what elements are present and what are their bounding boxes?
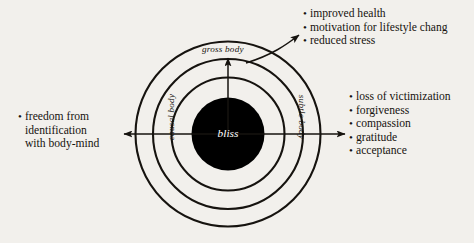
list-item-label-continued: with body-mind bbox=[18, 137, 138, 151]
list-item: •forgiveness bbox=[349, 104, 474, 118]
benefits-list-top-right: •improved health •motivation for lifesty… bbox=[303, 7, 474, 48]
list-item-label: gratitude bbox=[356, 131, 397, 144]
bullet-icon: • bbox=[303, 21, 310, 35]
ring-label-causal-body: causal body bbox=[166, 94, 176, 140]
bullet-icon: • bbox=[303, 34, 310, 48]
list-item-label: compassion bbox=[356, 117, 411, 130]
list-item-label-continued: identification bbox=[18, 124, 138, 138]
benefits-list-left: •freedom from identification with body-m… bbox=[18, 110, 138, 151]
figure-canvas: gross body causal body subtle body bliss… bbox=[0, 0, 474, 243]
list-item-label: motivation for lifestyle chang bbox=[310, 21, 447, 34]
list-item: •compassion bbox=[349, 117, 474, 131]
bullet-icon: • bbox=[349, 144, 356, 158]
list-item: •gratitude bbox=[349, 131, 474, 145]
list-item: •improved health bbox=[303, 7, 474, 21]
list-item-label: improved health bbox=[310, 7, 386, 20]
bullet-icon: • bbox=[349, 117, 356, 131]
center-label-bliss: bliss bbox=[198, 127, 258, 139]
list-item: •acceptance bbox=[349, 144, 474, 158]
list-item-label: reduced stress bbox=[310, 34, 375, 47]
bullet-icon: • bbox=[18, 110, 25, 124]
list-item: •motivation for lifestyle chang bbox=[303, 21, 474, 35]
list-item: •freedom from bbox=[18, 110, 138, 124]
list-item-label: forgiveness bbox=[356, 104, 409, 117]
bullet-icon: • bbox=[349, 90, 356, 104]
list-item-label: loss of victimization bbox=[356, 90, 451, 103]
list-item-label: acceptance bbox=[356, 144, 407, 157]
benefits-list-right: •loss of victimization •forgiveness •com… bbox=[349, 90, 474, 158]
bullet-icon: • bbox=[349, 104, 356, 118]
arrow-to-top-right-list bbox=[246, 35, 299, 63]
bullet-icon: • bbox=[303, 7, 310, 21]
ring-label-subtle-body: subtle body bbox=[297, 95, 307, 139]
ring-label-gross-body: gross body bbox=[202, 44, 244, 54]
list-item-label: freedom from bbox=[25, 110, 89, 123]
bullet-icon: • bbox=[349, 131, 356, 145]
list-item: •reduced stress bbox=[303, 34, 474, 48]
list-item: •loss of victimization bbox=[349, 90, 474, 104]
